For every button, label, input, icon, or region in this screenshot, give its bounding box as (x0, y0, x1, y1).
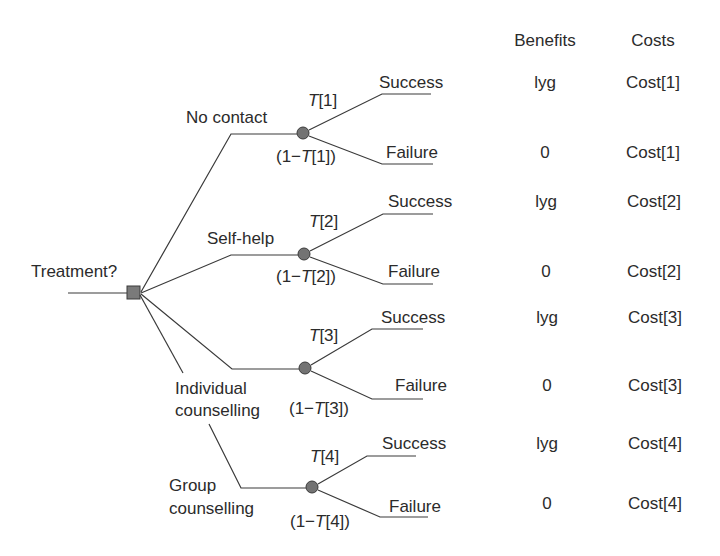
chance-node-circle-icon (306, 481, 318, 493)
benefit-value: lyg (536, 434, 558, 453)
branch-edge-upper (140, 295, 183, 373)
branch-edge (141, 255, 298, 293)
chance-node-circle-icon (299, 362, 311, 374)
cost-value: Cost[4] (628, 494, 682, 513)
cost-value: Cost[2] (627, 192, 681, 211)
outcome-success-label: Success (379, 73, 443, 92)
outcome-success-label: Success (388, 192, 452, 211)
branch-label-line1: Group (169, 476, 216, 495)
branch-label: No contact (186, 108, 268, 127)
outcome-failure-label: Failure (389, 497, 441, 516)
benefit-value: 0 (541, 262, 550, 281)
benefits-header: Benefits (514, 31, 575, 50)
cost-value: Cost[4] (628, 434, 682, 453)
outcome-failure-label: Failure (388, 262, 440, 281)
cost-value: Cost[2] (627, 262, 681, 281)
decision-root: Treatment? (31, 262, 140, 299)
branch-edge (141, 134, 297, 292)
branch-label-line2: counselling (169, 499, 254, 518)
branch-edge-lower (209, 424, 306, 488)
benefit-value: lyg (535, 192, 557, 211)
outcome-failure-label: Failure (395, 376, 447, 395)
prob-failure: (1−T[4]) (290, 512, 350, 531)
cost-value: Cost[1] (626, 73, 680, 92)
chance-node-circle-icon (298, 248, 310, 260)
decision-node-square-icon (127, 286, 140, 299)
outcome-failure-label: Failure (386, 143, 438, 162)
branch-label-line2: counselling (175, 401, 260, 420)
branch-self-help: Self-help T[2] (1−T[2]) Success Failure … (141, 192, 681, 293)
costs-header: Costs (631, 31, 674, 50)
outcome-success-label: Success (382, 434, 446, 453)
cost-value: Cost[3] (628, 376, 682, 395)
branch-label: Self-help (207, 229, 274, 248)
prob-success: T[3] (309, 326, 338, 345)
decision-tree-diagram: Benefits Costs Treatment? No contact T[1… (0, 0, 720, 556)
cost-value: Cost[1] (626, 143, 680, 162)
column-headers: Benefits Costs (514, 31, 674, 50)
benefit-value: lyg (534, 73, 556, 92)
prob-failure: (1−T[2]) (276, 267, 336, 286)
prob-success: T[1] (308, 91, 337, 110)
branch-individual-counselling: Individual counselling T[3] (1−T[3]) Suc… (141, 294, 682, 420)
branch-label-line1: Individual (175, 379, 247, 398)
prob-success: T[2] (309, 212, 338, 231)
prob-success: T[4] (310, 447, 339, 466)
outcome-success-label: Success (381, 308, 445, 327)
chance-node-circle-icon (297, 127, 309, 139)
benefit-value: 0 (540, 143, 549, 162)
benefit-value: lyg (536, 308, 558, 327)
cost-value: Cost[3] (628, 308, 682, 327)
benefit-value: 0 (542, 494, 551, 513)
decision-label: Treatment? (31, 262, 117, 281)
benefit-value: 0 (542, 376, 551, 395)
branch-edge (141, 294, 299, 369)
prob-failure: (1−T[3]) (289, 399, 349, 418)
prob-failure: (1−T[1]) (276, 147, 336, 166)
